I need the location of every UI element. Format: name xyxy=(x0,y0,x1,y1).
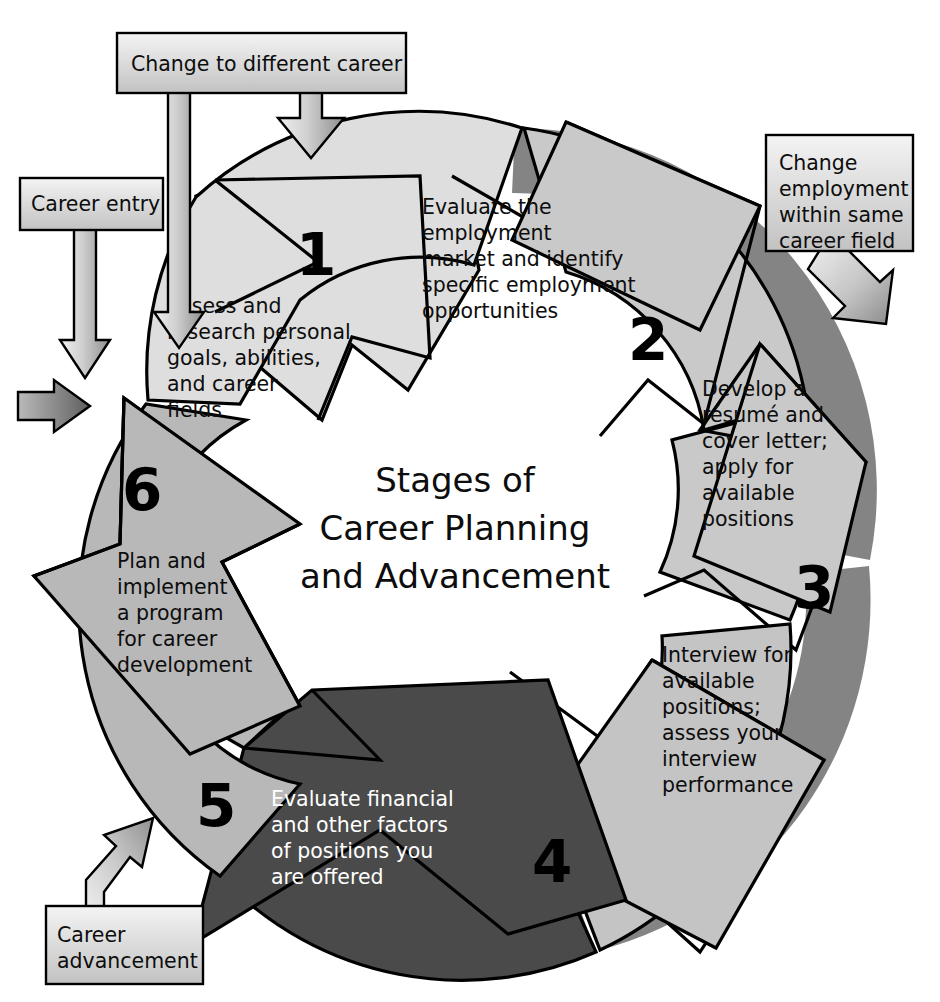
callout-career-advancement-line-1: Career xyxy=(57,923,126,947)
cycle-diagram: 1 2 3 4 5 6 Assess and research personal… xyxy=(0,0,940,1002)
stage-number-6: 6 xyxy=(122,456,162,524)
stage-3-line-1: Develop a xyxy=(702,377,805,401)
stage-number-5: 5 xyxy=(196,772,236,840)
stage-6-line-3: a program xyxy=(117,601,224,625)
stage-2-line-2: employment xyxy=(422,221,552,245)
stage-number-1: 1 xyxy=(296,221,336,289)
stage-4-line-2: available xyxy=(662,669,755,693)
stage-number-2: 2 xyxy=(628,306,668,374)
stage-1-line-4: and career xyxy=(167,372,278,396)
stage-3-line-6: positions xyxy=(702,507,794,531)
stage-1-line-3: goals, abilities, xyxy=(167,346,321,370)
diagram-canvas: 1 2 3 4 5 6 Assess and research personal… xyxy=(0,0,940,1002)
callout-career-advancement-line-2: advancement xyxy=(57,949,198,973)
stage-2-line-3: market and identify xyxy=(422,247,623,271)
stage-4-line-3: positions; xyxy=(662,695,761,719)
stage-number-4: 4 xyxy=(532,828,572,896)
stage-3-line-5: available xyxy=(702,481,795,505)
stage-3-line-2: résumé and xyxy=(702,403,824,427)
stage-6-line-1: Plan and xyxy=(117,549,206,573)
stage-4-line-6: performance xyxy=(662,773,793,797)
stage-number-3: 3 xyxy=(794,554,834,622)
callout-change-employment-line-2: employment xyxy=(779,177,909,201)
stage-4-line-1: Interview for xyxy=(662,643,793,667)
stage-3-line-3: cover letter; xyxy=(702,429,828,453)
callout-change-employment-line-3: within same xyxy=(779,203,904,227)
center-title: Stages of Career Planning and Advancemen… xyxy=(300,460,610,596)
stage-4-line-4: assess your xyxy=(662,721,783,745)
stage-6-line-2: implement xyxy=(117,575,228,599)
stage-2-line-4: specific employment xyxy=(422,273,636,297)
callout-change-career-label: Change to different career xyxy=(131,52,403,76)
callout-career-entry-label: Career entry xyxy=(31,192,160,216)
stage-1-line-5: fields xyxy=(167,398,222,422)
center-title-line-3: and Advancement xyxy=(300,556,610,596)
center-title-line-1: Stages of xyxy=(375,460,536,500)
callout-career-entry[interactable]: Career entry xyxy=(18,178,163,432)
callout-change-employment-line-1: Change xyxy=(779,151,858,175)
callout-change-employment-line-4: career field xyxy=(779,229,895,253)
center-title-line-2: Career Planning xyxy=(320,508,591,548)
stage-3-line-4: apply for xyxy=(702,455,794,479)
stage-4-line-5: interview xyxy=(662,747,757,771)
stage-5-line-1: Evaluate financial xyxy=(271,787,454,811)
stage-2-line-1: Evaluate the xyxy=(422,195,552,219)
stage-2-line-5: opportunities xyxy=(422,299,558,323)
stage-5-line-4: are offered xyxy=(271,865,384,889)
stage-6-line-5: development xyxy=(117,653,252,677)
stage-6-line-4: for career xyxy=(117,627,218,651)
stage-5-line-2: and other factors xyxy=(271,813,448,837)
stage-5-line-3: of positions you xyxy=(271,839,433,863)
